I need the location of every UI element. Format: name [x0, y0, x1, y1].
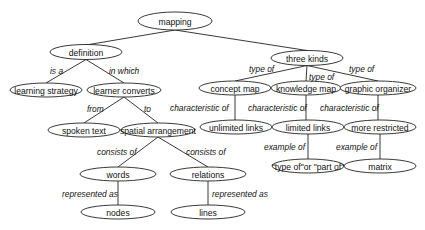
node-unlimited-links: unlimited links — [200, 120, 272, 134]
node-label: concept map — [210, 84, 259, 94]
edge-label: to — [144, 104, 151, 114]
edge-label: example of — [336, 142, 379, 152]
edge-label: consists of — [186, 147, 227, 157]
edge-label: characteristic of — [248, 103, 308, 113]
edge-label: represented as — [212, 189, 269, 199]
edge-label: is a — [50, 66, 63, 76]
node-more-restricted: more restricted — [344, 120, 416, 134]
edge-label: from — [87, 104, 104, 114]
node-label: spatial arrangement — [120, 126, 197, 136]
node-knowledge-map: knowledge map — [271, 81, 341, 95]
node-limited-links: limited links — [272, 120, 344, 134]
edge-label: characteristic of — [170, 103, 230, 113]
node-spoken-text: spoken text — [48, 123, 120, 137]
node-words: words — [80, 167, 156, 181]
node-learner-converts: learner converts — [87, 83, 161, 97]
node-label: more restricted — [351, 123, 409, 133]
node-label: graphic organizer — [345, 84, 412, 94]
node-label: mapping — [159, 17, 192, 27]
node-label: spoken text — [62, 126, 107, 136]
node-label: "type of"or "part of" — [272, 162, 344, 172]
diagram-canvas: mappingdefinitionlearning strategylearne… — [0, 0, 425, 230]
node-label: three kinds — [286, 54, 328, 64]
edge-label: type of — [349, 64, 376, 74]
node-label: limited links — [286, 123, 330, 133]
edge-label: in which — [109, 66, 140, 76]
node-type-or-part: "type of"or "part of" — [272, 159, 344, 173]
node-nodes: nodes — [81, 205, 155, 219]
edge-label: characteristic of — [320, 103, 380, 113]
node-relations: relations — [170, 167, 246, 181]
node-lines: lines — [171, 205, 245, 219]
nodes-layer: mappingdefinitionlearning strategylearne… — [10, 12, 416, 219]
edge-mapping-to-definition — [86, 30, 175, 45]
edge-label: represented as — [62, 189, 119, 199]
node-concept-map: concept map — [199, 81, 271, 95]
node-spatial-arrangement: spatial arrangement — [120, 123, 197, 137]
edge-label: type of — [309, 72, 336, 82]
node-label: learner converts — [93, 86, 155, 96]
edge-learner_converts-to-spatial_arrangement — [124, 97, 158, 123]
node-matrix: matrix — [344, 159, 416, 173]
edge-label: example of — [264, 142, 307, 152]
node-definition: definition — [50, 45, 122, 60]
edge-three_kinds-to-knowledge_map — [306, 66, 307, 82]
node-label: unlimited links — [209, 123, 263, 133]
node-label: relations — [192, 170, 224, 180]
edge-mapping-to-three_kinds — [175, 30, 307, 51]
node-label: words — [106, 170, 130, 180]
node-label: knowledge map — [276, 84, 336, 94]
concept-map-diagram: mappingdefinitionlearning strategylearne… — [0, 0, 425, 230]
node-label: lines — [199, 208, 217, 218]
node-label: nodes — [106, 208, 129, 218]
node-label: definition — [69, 48, 104, 58]
node-three-kinds: three kinds — [271, 51, 343, 66]
edge-label: type of — [249, 64, 276, 74]
node-label: learning strategy — [14, 86, 78, 96]
node-graphic-organizer: graphic organizer — [340, 81, 416, 95]
node-label: matrix — [368, 162, 392, 172]
edge-label: consists of — [97, 147, 138, 157]
node-learning-strategy: learning strategy — [10, 83, 82, 97]
node-mapping: mapping — [138, 12, 212, 30]
